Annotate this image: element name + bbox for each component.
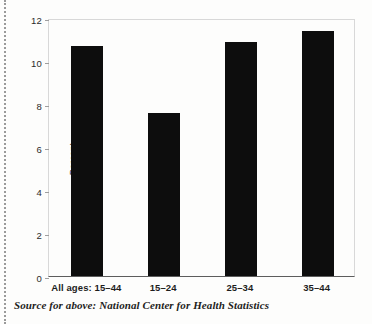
x-axis-label: 35–44 <box>303 282 330 293</box>
bar <box>71 46 103 276</box>
x-axis-label: 25–34 <box>226 282 253 293</box>
x-axis-label: All ages: 15–44 <box>51 282 121 293</box>
bar-chart-figure: Percent 024681012 All ages: 15–4415–2425… <box>0 0 372 324</box>
y-axis-tick-label: 12 <box>31 15 49 26</box>
y-axis-tick-label: 6 <box>37 144 49 155</box>
y-axis-tick-label: 10 <box>31 58 49 69</box>
bar <box>148 113 180 276</box>
source-note: Source for above: National Center for He… <box>14 299 269 311</box>
x-axis-label: 15–24 <box>150 282 177 293</box>
bar <box>225 42 257 276</box>
bar <box>302 31 334 276</box>
page-margin-dotted-rule <box>4 0 6 324</box>
y-axis-tick-label: 0 <box>37 273 49 284</box>
plot-area: Percent 024681012 <box>48 19 355 277</box>
y-axis-tick-label: 2 <box>37 230 49 241</box>
y-axis-tick-label: 8 <box>37 101 49 112</box>
y-axis-tick-label: 4 <box>37 187 49 198</box>
